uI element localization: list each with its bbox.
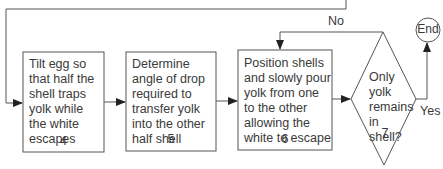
yes-connector xyxy=(416,43,427,99)
no-label: No xyxy=(328,14,344,29)
decision-7-number: 7 xyxy=(370,126,400,140)
step-6-number: 6 xyxy=(238,132,332,146)
step-4-number: 4 xyxy=(23,134,104,148)
yes-label: Yes xyxy=(420,104,440,119)
no-connector xyxy=(280,32,383,49)
end-label: End xyxy=(416,22,440,36)
step-5-number: 5 xyxy=(126,132,216,146)
